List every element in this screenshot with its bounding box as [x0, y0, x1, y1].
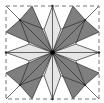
crease-pattern-diagram [0, 0, 104, 103]
vertex-dot [19, 84, 21, 86]
vertex-dot [51, 98, 53, 100]
vertex-dot [84, 84, 86, 86]
vertex-dot [51, 5, 53, 7]
vertex-dot [84, 19, 86, 21]
vertex-dot [98, 51, 100, 53]
center-dot [50, 50, 55, 55]
crease-pattern-svg [0, 0, 104, 103]
vertex-dot [19, 19, 21, 21]
vertex-dot [5, 51, 7, 53]
